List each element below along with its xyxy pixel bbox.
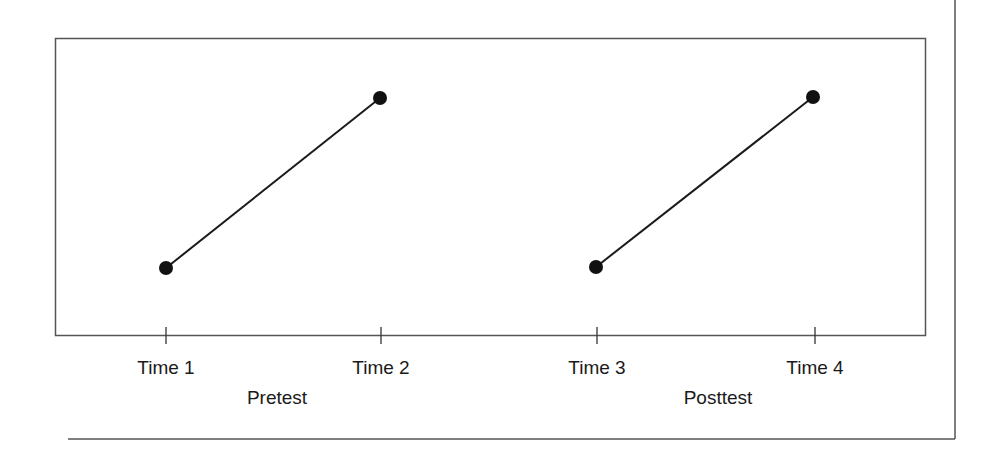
group-label-pretest: Pretest — [247, 387, 307, 409]
tick-label-time-4: Time 4 — [786, 357, 843, 379]
group-label-posttest: Posttest — [684, 387, 753, 409]
point-time-3 — [589, 260, 603, 274]
series-posttest — [589, 90, 820, 274]
tick-label-time-2: Time 2 — [352, 357, 409, 379]
point-time-2 — [373, 91, 387, 105]
tick-label-time-1: Time 1 — [137, 357, 194, 379]
diagram-canvas — [0, 0, 1003, 467]
point-time-1 — [159, 261, 173, 275]
tick-label-time-3: Time 3 — [568, 357, 625, 379]
series-pretest — [159, 91, 387, 275]
point-time-4 — [806, 90, 820, 104]
plot-frame — [56, 39, 926, 336]
